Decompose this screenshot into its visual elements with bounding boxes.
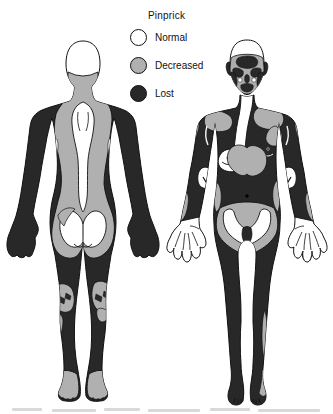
hand-normal-left xyxy=(167,217,206,262)
foot-decreased-left xyxy=(57,370,79,399)
foot-decreased-right xyxy=(87,370,109,399)
legend-item-normal: Normal xyxy=(130,28,203,47)
figure-canvas: Pinprick Normal Decreased Lost xyxy=(0,0,333,414)
legend-label-decreased: Decreased xyxy=(155,60,203,71)
legend-item-decreased: Decreased xyxy=(130,56,203,75)
caption-fragment-mark xyxy=(52,409,96,412)
caption-fragment-mark xyxy=(104,408,140,411)
triceps-stripe xyxy=(47,134,53,163)
face-normal-spot xyxy=(238,78,242,82)
popliteal-lobe-right xyxy=(97,308,108,322)
legend: Pinprick Normal Decreased Lost xyxy=(130,10,203,112)
legend-label-normal: Normal xyxy=(155,32,187,43)
legend-title: Pinprick xyxy=(148,10,203,21)
nipple-right xyxy=(267,148,270,151)
legend-label-lost: Lost xyxy=(155,88,174,99)
face-lost-nose xyxy=(245,75,250,84)
hand-normal-right xyxy=(288,217,327,262)
navel-dot xyxy=(245,194,248,197)
lost-swatch-icon xyxy=(130,85,147,102)
popliteal-decreased-right xyxy=(92,281,113,312)
caption-fragment-mark xyxy=(210,408,250,411)
genital-lost xyxy=(242,227,252,246)
caption-fragment-mark xyxy=(148,409,200,412)
caption-fragment-mark xyxy=(258,409,320,412)
triceps-stripe xyxy=(114,134,120,163)
face-lost-chin xyxy=(241,84,253,93)
face-lost-forehead xyxy=(236,56,257,68)
face-normal-spot xyxy=(252,78,256,82)
decreased-swatch-icon xyxy=(130,57,147,74)
caption-fragment-mark xyxy=(12,408,42,411)
legend-item-lost: Lost xyxy=(130,84,203,103)
normal-swatch-icon xyxy=(130,29,147,46)
popliteal-decreased-left xyxy=(54,284,74,312)
